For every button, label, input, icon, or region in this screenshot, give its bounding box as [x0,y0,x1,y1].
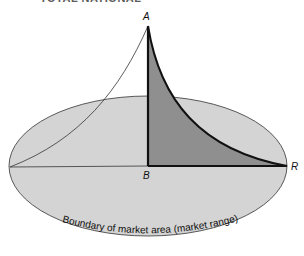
market-area-diagram: A B R Boundary of market area (market ra… [0,0,304,256]
point-label-b: B [143,170,150,181]
point-label-a: A [142,11,150,22]
point-label-r: R [291,161,298,172]
